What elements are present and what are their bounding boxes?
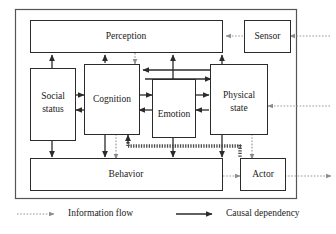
legend-item-causal-dependency: Causal dependency bbox=[176, 208, 300, 218]
node-physical-state-label-line1: Physical bbox=[223, 90, 256, 100]
node-behavior[interactable]: Behavior bbox=[31, 159, 223, 191]
diagram-canvas: Perception Sensor Social status Cognitio… bbox=[0, 0, 336, 234]
legend: Information flow Causal dependency bbox=[17, 208, 300, 218]
node-physical-state[interactable]: Physical state bbox=[211, 65, 268, 135]
node-physical-state-label-line2: state bbox=[230, 103, 247, 113]
node-social-status[interactable]: Social status bbox=[31, 69, 76, 141]
node-behavior-label: Behavior bbox=[109, 169, 145, 179]
legend-label-causal-dependency: Causal dependency bbox=[226, 208, 300, 218]
node-social-status-label-line1: Social bbox=[41, 91, 65, 101]
node-cognition[interactable]: Cognition bbox=[85, 65, 140, 135]
architecture-diagram: Perception Sensor Social status Cognitio… bbox=[0, 0, 336, 234]
legend-item-information-flow: Information flow bbox=[17, 208, 133, 218]
node-actor[interactable]: Actor bbox=[241, 159, 286, 191]
node-actor-label: Actor bbox=[252, 169, 274, 179]
node-social-status-label-line2: status bbox=[42, 104, 64, 114]
node-sensor[interactable]: Sensor bbox=[245, 21, 291, 53]
node-sensor-label: Sensor bbox=[255, 31, 282, 41]
legend-label-information-flow: Information flow bbox=[68, 208, 133, 218]
node-perception[interactable]: Perception bbox=[31, 21, 223, 53]
node-emotion-label: Emotion bbox=[158, 109, 191, 119]
node-cognition-label: Cognition bbox=[93, 94, 131, 104]
node-perception-label: Perception bbox=[106, 31, 147, 41]
node-emotion[interactable]: Emotion bbox=[153, 80, 196, 138]
